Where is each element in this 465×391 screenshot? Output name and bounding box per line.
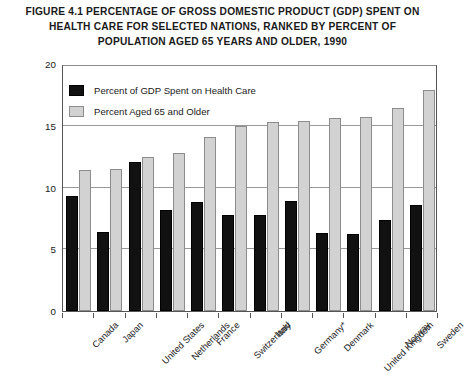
bar-gdp-percent [97, 232, 109, 311]
x-tick [375, 313, 376, 318]
x-axis-label: Germany* [312, 320, 348, 356]
y-tick-label: 20 [22, 59, 56, 70]
legend-item-gdp: Percent of GDP Spent on Health Care [69, 81, 339, 99]
legend-swatch-aged65-icon [69, 106, 84, 117]
x-tick [406, 313, 407, 318]
bar-aged65-percent [298, 121, 310, 311]
x-axis-label: Canada [91, 320, 121, 350]
y-tick-label: 10 [22, 183, 56, 194]
legend-label-aged65: Percent Aged 65 and Older [94, 106, 210, 117]
x-tick [312, 313, 313, 318]
bar-gdp-percent [379, 220, 391, 311]
bar-aged65-percent [360, 117, 372, 311]
bar-gdp-percent [316, 233, 328, 311]
x-tick [125, 313, 126, 318]
bar-gdp-percent [347, 234, 359, 311]
bar-gdp-percent [160, 210, 172, 311]
x-axis: CanadaJapanUnited StatesNetherlandsFranc… [0, 313, 445, 391]
bar-aged65-percent [329, 118, 341, 311]
x-tick [437, 313, 438, 318]
legend-item-aged65: Percent Aged 65 and Older [69, 102, 339, 120]
x-tick [250, 313, 251, 318]
x-tick [281, 313, 282, 318]
x-axis-label: Japan [120, 320, 145, 345]
bar-aged65-percent [110, 169, 122, 311]
x-tick [187, 313, 188, 318]
x-tick [62, 313, 63, 318]
bar-aged65-percent [267, 122, 279, 311]
legend-label-gdp: Percent of GDP Spent on Health Care [94, 85, 256, 96]
bar-group [344, 66, 375, 311]
bar-aged65-percent [423, 90, 435, 311]
bar-gdp-percent [285, 201, 297, 311]
bar-aged65-percent [173, 153, 185, 311]
bar-gdp-percent [254, 215, 266, 311]
bar-aged65-percent [79, 170, 91, 311]
bar-gdp-percent [129, 162, 141, 311]
y-tick-label: 15 [22, 121, 56, 132]
bar-aged65-percent [204, 137, 216, 311]
bar-group [376, 66, 407, 311]
bar-aged65-percent [392, 108, 404, 311]
plot-area: Percent of GDP Spent on Health Care Perc… [62, 65, 437, 312]
x-tick [93, 313, 94, 318]
bar-aged65-percent [235, 126, 247, 311]
chart-legend: Percent of GDP Spent on Health Care Perc… [69, 81, 339, 123]
x-tick [218, 313, 219, 318]
bar-gdp-percent [191, 202, 203, 311]
y-tick-label: 5 [22, 244, 56, 255]
bar-gdp-percent [222, 215, 234, 311]
bar-aged65-percent [142, 157, 154, 311]
bar-gdp-percent [66, 196, 78, 311]
x-tick [343, 313, 344, 318]
bar-gdp-percent [410, 205, 422, 311]
legend-swatch-gdp-icon [69, 85, 84, 96]
x-tick [156, 313, 157, 318]
x-axis-label: Sweden [435, 320, 465, 351]
bar-group [407, 66, 438, 311]
